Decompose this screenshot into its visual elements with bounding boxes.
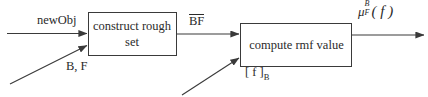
block-construct-rough-set-label: construct rough set <box>88 19 176 50</box>
bf-bar-text: BF <box>189 14 204 28</box>
edge-label-newobj: newObj <box>37 14 77 27</box>
block1-line2: set <box>88 35 176 50</box>
block-compute-rmf-value-label: compute rmf value <box>241 38 352 53</box>
edge-label-f-bracket-b: [ f ]B <box>245 66 269 81</box>
block1-line1: construct rough <box>93 19 171 33</box>
edge-label-b-f: B, F <box>66 60 88 73</box>
edge-label-bf-bar: BF <box>189 14 204 28</box>
mu-argument: ( f ) <box>371 3 394 19</box>
block-flow-diagram: construct rough set compute rmf value ne… <box>0 0 428 97</box>
mu-script-group: BF <box>365 3 371 16</box>
edge-f-bracket-b-arrow <box>182 58 239 95</box>
f-bracket-text: [ f ] <box>245 65 264 79</box>
mu-subscript: F <box>365 9 370 17</box>
f-bracket-subscript: B <box>264 72 270 82</box>
block2-line1: compute rmf value <box>249 38 343 52</box>
edge-label-mu-output: μBF( f ) <box>358 3 393 20</box>
